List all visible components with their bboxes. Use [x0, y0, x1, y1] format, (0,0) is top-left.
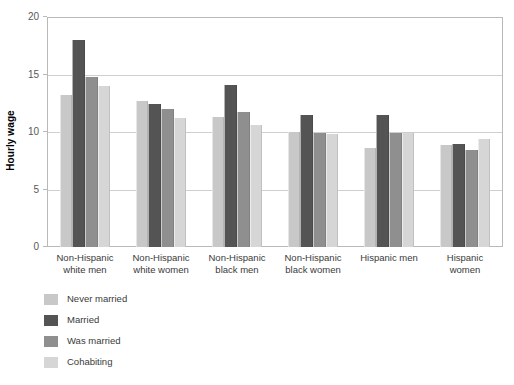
x-axis-label-line: Hispanic [421, 252, 509, 264]
hourly-wage-bar-chart: Hourly wage 05101520 Non-Hispanicwhite m… [0, 0, 514, 385]
bar [60, 95, 73, 247]
bar [148, 104, 161, 247]
bar [98, 86, 111, 247]
x-axis-label: Hispanicwomen [421, 252, 509, 275]
bar-group [212, 17, 262, 247]
x-axis-label-line: Hispanic men [345, 252, 433, 264]
x-axis-label: Non-Hispanicwhite women [117, 252, 205, 275]
bar [452, 144, 465, 248]
x-axis-label-line: women [421, 264, 509, 276]
bar [85, 77, 98, 247]
bar [376, 115, 389, 247]
x-axis-label: Hispanic men [345, 252, 433, 264]
legend-label: Cohabiting [67, 354, 112, 370]
x-axis-label-line: Non-Hispanic [41, 252, 129, 264]
bar [174, 118, 187, 247]
legend-swatch-icon [44, 294, 58, 305]
y-tick-label-5: 5 [5, 184, 39, 195]
x-axis-label: Non-Hispanicwhite men [41, 252, 129, 275]
legend-label: Never married [67, 291, 127, 307]
bar-group [440, 17, 490, 247]
legend-swatch-icon [44, 357, 58, 368]
x-axis-label-line: white men [41, 264, 129, 276]
bar [402, 133, 415, 247]
legend-label: Was married [67, 333, 121, 349]
bar [478, 139, 491, 247]
bar [250, 125, 263, 247]
bar [465, 150, 478, 247]
x-axis-label: Non-Hispanicblack men [193, 252, 281, 275]
x-axis-label-line: black men [193, 264, 281, 276]
x-axis-label: Non-Hispanicblack women [269, 252, 357, 275]
x-axis-label-line: Non-Hispanic [269, 252, 357, 264]
x-axis-label-line: white women [117, 264, 205, 276]
bar [300, 115, 313, 247]
y-tick-label-15: 15 [5, 69, 39, 80]
bar [389, 133, 402, 247]
bar [313, 133, 326, 247]
x-axis-label-line: Non-Hispanic [117, 252, 205, 264]
bar [72, 40, 85, 247]
bar [136, 101, 149, 247]
x-axis-label-line: Non-Hispanic [193, 252, 281, 264]
bar-group [136, 17, 186, 247]
bar [364, 148, 377, 247]
bar [326, 134, 339, 247]
bar [224, 85, 237, 247]
bar [440, 145, 453, 247]
bar-group [60, 17, 110, 247]
y-tick-label-0: 0 [5, 241, 39, 252]
bar-groups [47, 17, 503, 247]
bar [237, 112, 250, 247]
y-axis-title: Hourly wage [2, 95, 18, 185]
y-tick-label-20: 20 [5, 11, 39, 22]
bar [212, 117, 225, 247]
bar [161, 109, 174, 247]
x-axis-label-line: black women [269, 264, 357, 276]
legend-swatch-icon [44, 336, 58, 347]
legend-swatch-icon [44, 315, 58, 326]
legend-label: Married [67, 312, 99, 328]
bar-group [364, 17, 414, 247]
bar-group [288, 17, 338, 247]
y-axis-title-text: Hourly wage [5, 110, 16, 171]
y-tick-label-10: 10 [5, 126, 39, 137]
bar [288, 132, 301, 247]
